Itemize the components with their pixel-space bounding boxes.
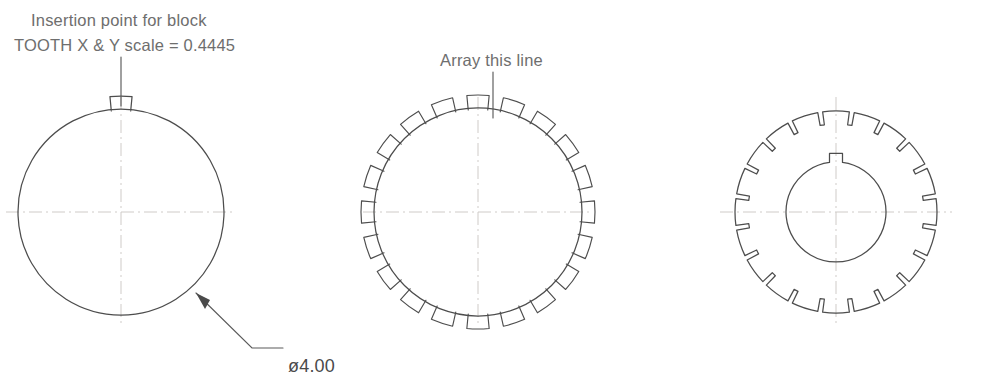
gear-tooth — [431, 306, 455, 326]
gear-tooth — [500, 98, 524, 118]
leader-lines — [121, 57, 493, 348]
gear-tooth — [530, 111, 555, 135]
centerlines-view2 — [363, 97, 593, 327]
gear-tooth — [572, 234, 592, 258]
gear-tooth — [401, 111, 426, 135]
view-arrayed-teeth — [361, 95, 595, 329]
centerlines-view3 — [720, 97, 952, 327]
gear-tooth — [555, 135, 579, 160]
gear-tooth — [364, 165, 384, 189]
insertion-note-line2: TOOTH X & Y scale = 0.4445 — [14, 36, 235, 54]
gear-tooth — [500, 306, 524, 326]
array-note: Array this line — [440, 51, 543, 69]
gear-tooth — [530, 289, 555, 313]
gear-tooth — [431, 98, 455, 118]
gear-tooth — [377, 135, 401, 160]
diameter-leader-arrowhead — [196, 293, 210, 309]
gear-tooth — [555, 264, 579, 289]
text-annotations: Insertion point for block TOOTH X & Y sc… — [14, 11, 543, 376]
gear-tooth — [364, 234, 384, 258]
diameter-dimension-label: ø4.00 — [288, 356, 335, 376]
centerlines-view1 — [6, 97, 236, 327]
view-base-circle — [6, 96, 236, 327]
insertion-note-line1: Insertion point for block — [31, 11, 207, 29]
cad-drawing-canvas: Insertion point for block TOOTH X & Y sc… — [0, 0, 981, 392]
gear-tooth — [377, 264, 401, 289]
gear-tooth — [401, 289, 426, 313]
view-finished-gear — [720, 97, 952, 327]
gear-tooth — [572, 165, 592, 189]
